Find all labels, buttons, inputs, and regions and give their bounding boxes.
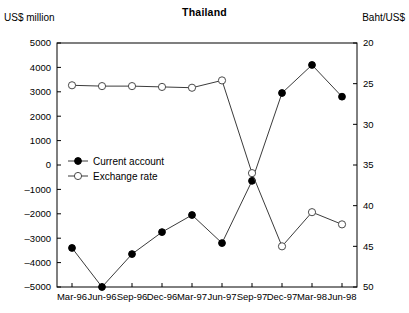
category-label: Mar-98	[297, 291, 327, 302]
legend-item[interactable]: Current account	[68, 156, 164, 167]
right-tick-label: 20	[363, 37, 374, 48]
left-tick-label: 0	[46, 159, 51, 170]
data-point	[308, 209, 315, 216]
right-tick-label: 45	[363, 241, 374, 252]
chart-title: Thailand	[0, 6, 409, 18]
right-tick-label: 50	[363, 281, 374, 292]
plot-area: 500040003000200010000–1000–2000–3000–400…	[0, 0, 409, 313]
left-tick-label: 2000	[30, 111, 51, 122]
right-tick-label: 30	[363, 119, 374, 130]
right-axis-ticks: 20253035404550	[353, 37, 374, 292]
chart-container: US$ million Baht/US$ Thailand 5000400030…	[0, 0, 409, 313]
category-label: Mar-97	[177, 291, 207, 302]
left-tick-label: 3000	[30, 86, 51, 97]
data-point	[218, 77, 225, 84]
left-axis-ticks: 500040003000200010000–1000–2000–3000–400…	[25, 37, 61, 292]
chart-legend: Current accountExchange rate	[68, 156, 164, 182]
legend-marker-filled-circle-icon	[75, 158, 82, 165]
left-tick-label: –2000	[25, 208, 51, 219]
data-point	[339, 93, 346, 100]
data-point	[158, 83, 165, 90]
legend-item[interactable]: Exchange rate	[68, 171, 158, 182]
right-tick-label: 35	[363, 159, 374, 170]
data-point	[219, 240, 226, 247]
category-label: Sep-97	[237, 291, 268, 302]
right-tick-label: 40	[363, 200, 374, 211]
category-label: Mar-96	[57, 291, 87, 302]
legend-label: Current account	[93, 156, 164, 167]
data-point	[309, 62, 316, 69]
legend-marker-open-circle-icon	[74, 172, 81, 179]
data-point	[99, 284, 106, 291]
category-label: Jun-97	[207, 291, 236, 302]
left-tick-label: –5000	[25, 281, 51, 292]
data-point	[189, 212, 196, 219]
category-label: Sep-96	[117, 291, 148, 302]
data-point	[98, 83, 105, 90]
data-point	[338, 221, 345, 228]
category-label: Jun-96	[87, 291, 116, 302]
data-point	[128, 83, 135, 90]
data-point	[279, 90, 286, 97]
category-label: Jun-98	[327, 291, 356, 302]
left-tick-label: –3000	[25, 233, 51, 244]
left-tick-label: 5000	[30, 37, 51, 48]
left-tick-label: 1000	[30, 135, 51, 146]
data-point	[69, 245, 76, 252]
data-point	[188, 84, 195, 91]
left-tick-label: 4000	[30, 62, 51, 73]
data-point	[278, 243, 285, 250]
data-point	[129, 251, 136, 258]
left-tick-label: –1000	[25, 184, 51, 195]
legend-label: Exchange rate	[93, 171, 158, 182]
data-point	[159, 229, 166, 236]
right-tick-label: 25	[363, 78, 374, 89]
left-tick-label: –4000	[25, 257, 51, 268]
data-point	[248, 170, 255, 177]
category-label: Dec-97	[267, 291, 298, 302]
data-point	[68, 82, 75, 89]
category-label: Dec-96	[147, 291, 178, 302]
